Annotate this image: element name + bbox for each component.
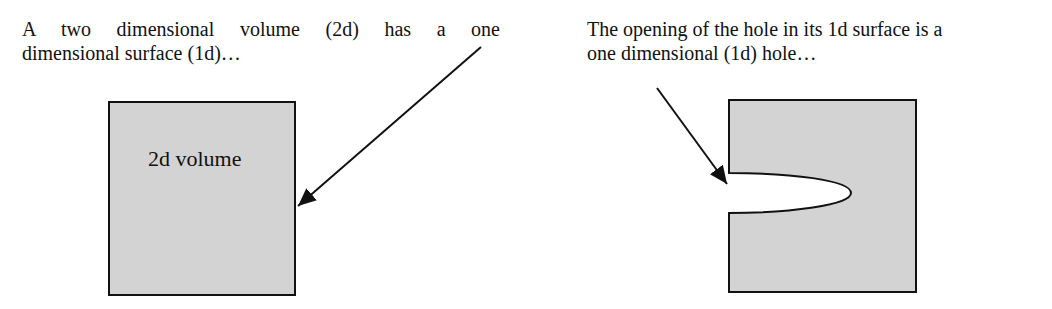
diagram-canvas: 2d volume bbox=[0, 0, 1052, 309]
surface-arrow bbox=[298, 47, 481, 206]
hole-arrow bbox=[657, 88, 727, 184]
volume-label: 2d volume bbox=[148, 146, 242, 171]
left-figure: 2d volume bbox=[109, 47, 481, 295]
right-figure bbox=[657, 88, 916, 292]
volume-square bbox=[109, 102, 295, 295]
holed-square bbox=[729, 100, 916, 292]
